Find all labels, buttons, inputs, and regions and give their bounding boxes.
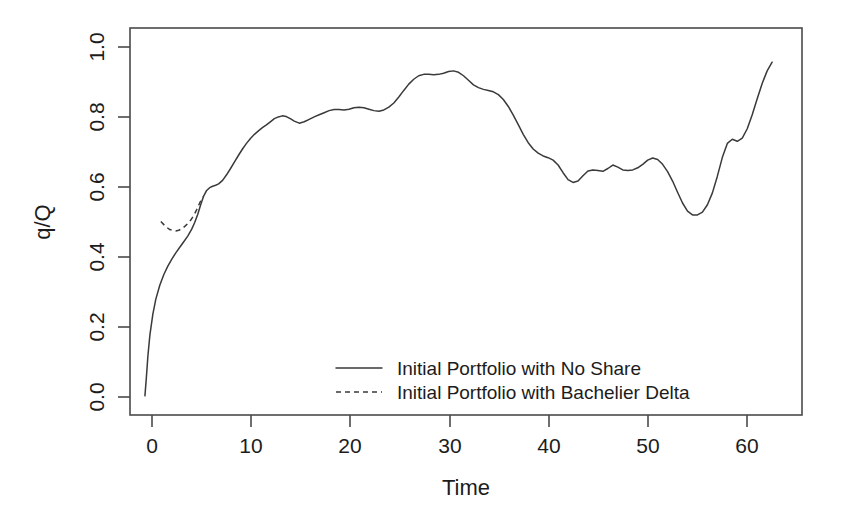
y-tick-label: 0.8	[85, 102, 108, 131]
series-line-no-share	[145, 62, 772, 396]
x-tick-label: 0	[146, 434, 158, 457]
x-tick-label: 10	[239, 434, 262, 457]
y-tick-label: 1.0	[85, 32, 108, 61]
chart-figure: 0 10 20 30 40 50 60 0.0 0.2 0.4 0.6 0.8 …	[0, 0, 845, 521]
x-tick-label: 50	[636, 434, 659, 457]
y-axis-tick-labels: 0.0 0.2 0.4 0.6 0.8 1.0	[85, 32, 108, 411]
y-tick-label: 0.4	[85, 242, 108, 272]
x-axis-tick-labels: 0 10 20 30 40 50 60	[146, 434, 759, 457]
plot-frame	[130, 28, 802, 415]
x-tick-label: 30	[438, 434, 461, 457]
x-axis-title: Time	[442, 475, 490, 500]
data-series-group	[145, 62, 772, 396]
y-axis-title: q/Q	[30, 204, 55, 239]
legend-label-no-share: Initial Portfolio with No Share	[397, 358, 641, 379]
y-tick-label: 0.6	[85, 172, 108, 201]
legend-label-bachelier-delta: Initial Portfolio with Bachelier Delta	[397, 382, 690, 403]
y-axis-ticks	[118, 47, 130, 397]
x-axis-ticks	[152, 415, 747, 427]
x-tick-label: 40	[537, 434, 560, 457]
series-line-bachelier-delta	[161, 197, 203, 231]
x-tick-label: 20	[338, 434, 361, 457]
x-tick-label: 60	[735, 434, 758, 457]
y-tick-label: 0.2	[85, 312, 108, 341]
line-chart: 0 10 20 30 40 50 60 0.0 0.2 0.4 0.6 0.8 …	[0, 0, 845, 521]
y-tick-label: 0.0	[85, 382, 108, 411]
legend: Initial Portfolio with No Share Initial …	[336, 358, 690, 403]
